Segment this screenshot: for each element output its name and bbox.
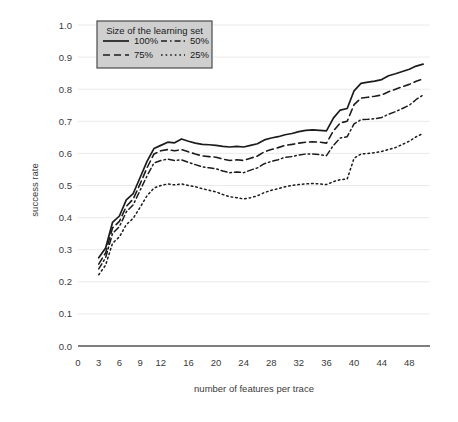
- y-tick-label: 0.7: [59, 116, 72, 127]
- y-tick-label: 0.9: [59, 52, 72, 63]
- chart-legend: Size of the learning set 100%50%75%25%: [97, 21, 212, 68]
- x-tick-label: 28: [266, 357, 277, 368]
- y-tick-label: 0.0: [59, 341, 72, 352]
- series-line-75pct: [99, 79, 423, 264]
- x-tick-label: 44: [376, 357, 387, 368]
- line-chart-svg: 0.00.10.20.30.40.50.60.70.80.91.0 036912…: [0, 0, 458, 422]
- y-tick-label: 0.6: [59, 148, 72, 159]
- x-tick-label: 16: [183, 357, 194, 368]
- x-tick-label: 48: [404, 357, 415, 368]
- y-axis-title: success rate: [29, 163, 40, 216]
- x-axis-tick-labels: 036912162024283236404448: [75, 357, 414, 368]
- x-tick-label: 3: [96, 357, 101, 368]
- y-tick-label: 1.0: [59, 20, 72, 31]
- y-tick-label: 0.8: [59, 84, 72, 95]
- y-tick-label: 0.1: [59, 308, 72, 319]
- y-tick-label: 0.3: [59, 244, 72, 255]
- legend-label-75pct: 75%: [134, 49, 154, 60]
- series-line-100pct: [99, 64, 423, 258]
- y-tick-label: 0.4: [59, 212, 72, 223]
- x-axis-title: number of features per trace: [194, 383, 314, 394]
- x-tick-label: 24: [238, 357, 249, 368]
- x-tick-label: 40: [349, 357, 360, 368]
- x-tick-label: 0: [75, 357, 80, 368]
- y-tick-label: 0.2: [59, 276, 72, 287]
- x-tick-label: 36: [321, 357, 332, 368]
- legend-label-50pct: 50%: [190, 35, 210, 46]
- y-tick-label: 0.5: [59, 180, 72, 191]
- x-tick-label: 20: [211, 357, 222, 368]
- x-tick-label: 32: [294, 357, 305, 368]
- data-series-group: [99, 64, 423, 275]
- legend-label-100pct: 100%: [134, 35, 159, 46]
- x-tick-label: 6: [117, 357, 122, 368]
- x-tick-label: 12: [156, 357, 167, 368]
- y-axis-tick-labels: 0.00.10.20.30.40.50.60.70.80.91.0: [59, 20, 72, 352]
- legend-label-25pct: 25%: [190, 49, 210, 60]
- chart-figure: 0.00.10.20.30.40.50.60.70.80.91.0 036912…: [0, 0, 458, 422]
- x-tick-label: 9: [137, 357, 142, 368]
